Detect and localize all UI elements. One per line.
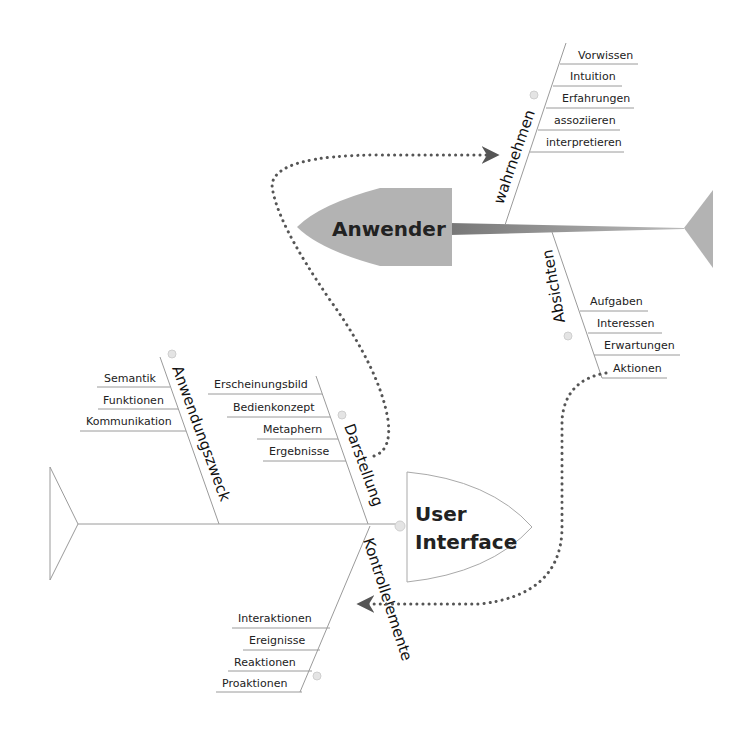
wahrnehmen-collapse-toggle[interactable] — [530, 91, 538, 99]
leaf-aktionen: Aktionen — [613, 362, 662, 375]
absichten-label: Absichten — [538, 248, 569, 324]
darstellung-collapse-toggle[interactable] — [338, 411, 346, 419]
connector-aktionen-to-kontrollelemente — [360, 373, 606, 604]
user-interface-fish: User Interface Anwendungszweck Semantik … — [50, 350, 532, 692]
anwender-label: Anwender — [332, 217, 446, 241]
wahrnehmen-label: wahrnehmen — [490, 107, 539, 206]
leaf-erwartungen: Erwartungen — [604, 339, 675, 352]
leaf-erscheinungsbild: Erscheinungsbild — [214, 378, 308, 391]
leaf-proaktionen: Proaktionen — [222, 677, 287, 690]
leaf-ergebnisse: Ergebnisse — [269, 445, 330, 458]
leaf-ereignisse: Ereignisse — [249, 634, 306, 647]
darstellung-items: Erscheinungsbild Bedienkonzept Metaphern… — [208, 378, 346, 461]
leaf-vorwissen: Vorwissen — [578, 49, 633, 62]
kontrollelemente-bone — [300, 526, 370, 692]
leaf-interpretieren: interpretieren — [546, 136, 622, 149]
anwender-spine — [450, 223, 684, 235]
anwender-fish: Anwender wahrnehmen Vorwissen Intuition … — [297, 43, 713, 378]
leaf-interessen: Interessen — [597, 317, 655, 330]
ui-collapse-toggle[interactable] — [395, 521, 405, 531]
anwender-tail-icon — [684, 190, 713, 268]
wahrnehmen-items: Vorwissen Intuition Erfahrungen assoziie… — [530, 49, 638, 152]
ui-head[interactable] — [407, 472, 532, 582]
absichten-items: Aufgaben Interessen Erwartungen Aktionen — [580, 295, 680, 378]
leaf-aufgaben: Aufgaben — [590, 295, 643, 308]
leaf-erfahrungen: Erfahrungen — [562, 92, 630, 105]
leaf-funktionen: Funktionen — [103, 394, 164, 407]
leaf-interaktionen: Interaktionen — [238, 612, 312, 625]
leaf-assoziieren: assoziieren — [554, 114, 616, 127]
kontrollelemente-collapse-toggle[interactable] — [313, 672, 321, 680]
ui-tail-icon — [50, 467, 78, 580]
leaf-semantik: Semantik — [104, 372, 157, 385]
ui-label-line1: User — [415, 502, 467, 526]
fishbone-diagram: Anwender wahrnehmen Vorwissen Intuition … — [0, 0, 753, 734]
leaf-kommunikation: Kommunikation — [86, 415, 172, 428]
leaf-intuition: Intuition — [570, 70, 616, 83]
leaf-reaktionen: Reaktionen — [234, 656, 296, 669]
anwendungszweck-items: Semantik Funktionen Kommunikation — [80, 372, 186, 431]
anwendungszweck-collapse-toggle[interactable] — [168, 350, 176, 358]
ui-label-line2: Interface — [415, 530, 517, 554]
kontrollelemente-items: Interaktionen Ereignisse Reaktionen Proa… — [216, 612, 330, 692]
absichten-collapse-toggle[interactable] — [564, 332, 572, 340]
leaf-metaphern: Metaphern — [263, 423, 322, 436]
leaf-bedienkonzept: Bedienkonzept — [233, 401, 315, 414]
